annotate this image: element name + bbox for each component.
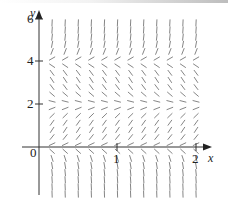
slope-segment bbox=[141, 113, 146, 118]
slope-segment bbox=[52, 27, 53, 34]
slope-segment bbox=[50, 70, 54, 76]
slope-segment bbox=[168, 120, 172, 126]
slope-segment bbox=[168, 77, 172, 83]
slope-segment bbox=[180, 107, 187, 110]
slope-segment bbox=[128, 64, 134, 68]
slope-segment bbox=[91, 27, 92, 34]
slope-segment bbox=[196, 27, 197, 34]
slope-segment bbox=[65, 34, 66, 41]
slope-segment bbox=[141, 92, 146, 97]
slope-segment bbox=[114, 107, 121, 110]
slope-segment bbox=[52, 169, 53, 176]
slope-segment bbox=[52, 162, 53, 169]
slope-segment bbox=[115, 70, 119, 76]
slope-segment bbox=[168, 127, 172, 133]
slope-field-plot: y x 0 1 2 2 4 6 bbox=[0, 0, 228, 210]
slope-segment bbox=[143, 27, 144, 34]
slope-segment bbox=[115, 120, 119, 126]
slope-segment bbox=[194, 120, 198, 126]
slope-segment bbox=[49, 107, 56, 110]
slope-segment bbox=[115, 84, 119, 90]
slope-segment bbox=[49, 143, 55, 146]
slope-segment bbox=[155, 48, 158, 55]
slope-segment bbox=[104, 41, 105, 48]
slope-segment bbox=[155, 127, 159, 133]
slope-segment bbox=[91, 162, 92, 169]
slope-segment bbox=[102, 84, 106, 90]
slope-segment bbox=[89, 70, 93, 76]
slope-segment bbox=[76, 77, 80, 83]
slope-segment bbox=[130, 169, 131, 176]
slope-segment bbox=[194, 70, 198, 76]
slope-segment bbox=[51, 155, 53, 162]
slope-segment bbox=[167, 64, 173, 68]
slope-segment bbox=[50, 77, 54, 83]
slope-segment bbox=[155, 77, 159, 83]
slope-segment bbox=[62, 57, 68, 60]
slope-segment bbox=[127, 143, 133, 146]
slope-segment bbox=[75, 57, 81, 60]
slope-segment bbox=[102, 120, 106, 126]
slope-segment bbox=[64, 48, 67, 55]
slope-segment bbox=[51, 41, 52, 48]
slope-segment bbox=[88, 57, 94, 60]
slope-segment bbox=[102, 149, 107, 154]
slope-segment bbox=[169, 41, 170, 48]
slope-segment bbox=[183, 169, 184, 176]
slope-segment bbox=[181, 134, 185, 139]
slope-segment bbox=[50, 84, 54, 90]
slope-segment bbox=[180, 100, 187, 102]
slope-segment bbox=[62, 143, 68, 146]
slope-segment bbox=[102, 127, 106, 133]
slope-segment bbox=[154, 113, 159, 118]
slope-segment bbox=[63, 113, 68, 118]
slope-segment bbox=[154, 149, 159, 154]
slope-segment bbox=[169, 34, 170, 41]
slope-segment bbox=[193, 64, 199, 68]
slope-segment bbox=[143, 34, 144, 41]
slope-segment bbox=[62, 64, 68, 68]
slope-segment bbox=[143, 41, 144, 48]
slope-segment bbox=[183, 27, 184, 34]
slope-segment bbox=[88, 100, 95, 102]
slope-segment bbox=[102, 64, 108, 68]
slope-segment bbox=[50, 113, 55, 118]
slope-segment bbox=[101, 107, 108, 110]
slope-segment bbox=[142, 48, 145, 55]
origin-label: 0 bbox=[30, 145, 37, 160]
slope-segment bbox=[143, 162, 144, 169]
slope-segment bbox=[62, 107, 69, 110]
slope-segment bbox=[49, 57, 55, 60]
slope-segment bbox=[166, 100, 173, 102]
slope-segment bbox=[143, 169, 144, 176]
slope-segment bbox=[103, 155, 105, 162]
slope-segment bbox=[183, 34, 184, 41]
slope-segment bbox=[75, 143, 81, 146]
slope-segment bbox=[182, 41, 183, 48]
slope-segment bbox=[62, 100, 69, 102]
slope-segment bbox=[194, 127, 198, 133]
slope-segment bbox=[104, 27, 105, 34]
slope-segment bbox=[89, 92, 94, 97]
slope-segment bbox=[193, 100, 200, 102]
slope-segment bbox=[117, 41, 118, 48]
slope-segment bbox=[50, 127, 54, 133]
slope-segment bbox=[117, 169, 118, 176]
slope-segment bbox=[129, 77, 133, 83]
slope-segment bbox=[63, 127, 67, 133]
slope-segment bbox=[143, 155, 145, 162]
slope-segment bbox=[180, 113, 185, 118]
slope-segment bbox=[141, 143, 147, 146]
slope-segment bbox=[141, 57, 147, 60]
slope-segment bbox=[114, 100, 121, 102]
slope-segment bbox=[156, 155, 158, 162]
slope-segment bbox=[76, 134, 80, 139]
slope-segment bbox=[78, 41, 79, 48]
slope-segment bbox=[130, 41, 131, 48]
slope-segment bbox=[78, 27, 79, 34]
slope-segment bbox=[90, 48, 93, 55]
slope-segment bbox=[115, 92, 120, 97]
slope-segment bbox=[63, 149, 68, 154]
slope-segment bbox=[63, 70, 67, 76]
slope-segment bbox=[142, 127, 146, 133]
